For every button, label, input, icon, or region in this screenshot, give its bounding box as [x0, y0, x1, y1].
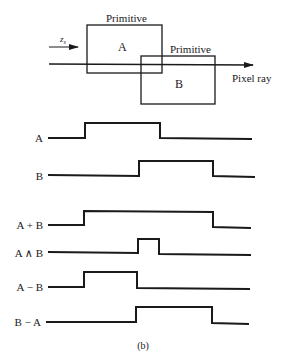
waveform-group — [46, 123, 255, 324]
waveform-b — [48, 161, 255, 177]
waveform-label-b-minus-a: B − A — [15, 316, 41, 328]
waveform-label-a-intersect-b: A ∧ B — [15, 247, 43, 259]
primitive-b-title: Primitive — [170, 43, 211, 55]
waveform-label-a-union-b: A + B — [17, 219, 43, 231]
pixel-ray-label: Pixel ray — [232, 72, 272, 84]
waveform-label-a: A — [35, 132, 43, 144]
waveform-label-a-minus-b: A − B — [17, 281, 43, 293]
waveform-a-minus-b — [48, 272, 250, 289]
figure-caption: (b) — [137, 340, 149, 352]
primitive-b-label: B — [175, 77, 183, 91]
primitive-a-label: A — [118, 40, 127, 54]
csg-ray-diagram: Primitive A Primitive B zs Pixel ray A B… — [0, 0, 286, 363]
depth-label: zs — [59, 34, 67, 45]
waveform-label-b: B — [36, 170, 43, 182]
primitives-scene: Primitive A Primitive B zs Pixel ray — [49, 12, 272, 104]
waveform-a-intersect-b — [48, 239, 251, 255]
pixel-ray-arrow-icon — [49, 64, 253, 65]
waveform-a-union-b — [48, 211, 251, 228]
primitive-a-title: Primitive — [106, 12, 147, 24]
waveform-labels: A B A + B A ∧ B A − B B − A — [15, 132, 43, 328]
waveform-b-minus-a — [46, 307, 249, 324]
waveform-a — [48, 123, 252, 139]
